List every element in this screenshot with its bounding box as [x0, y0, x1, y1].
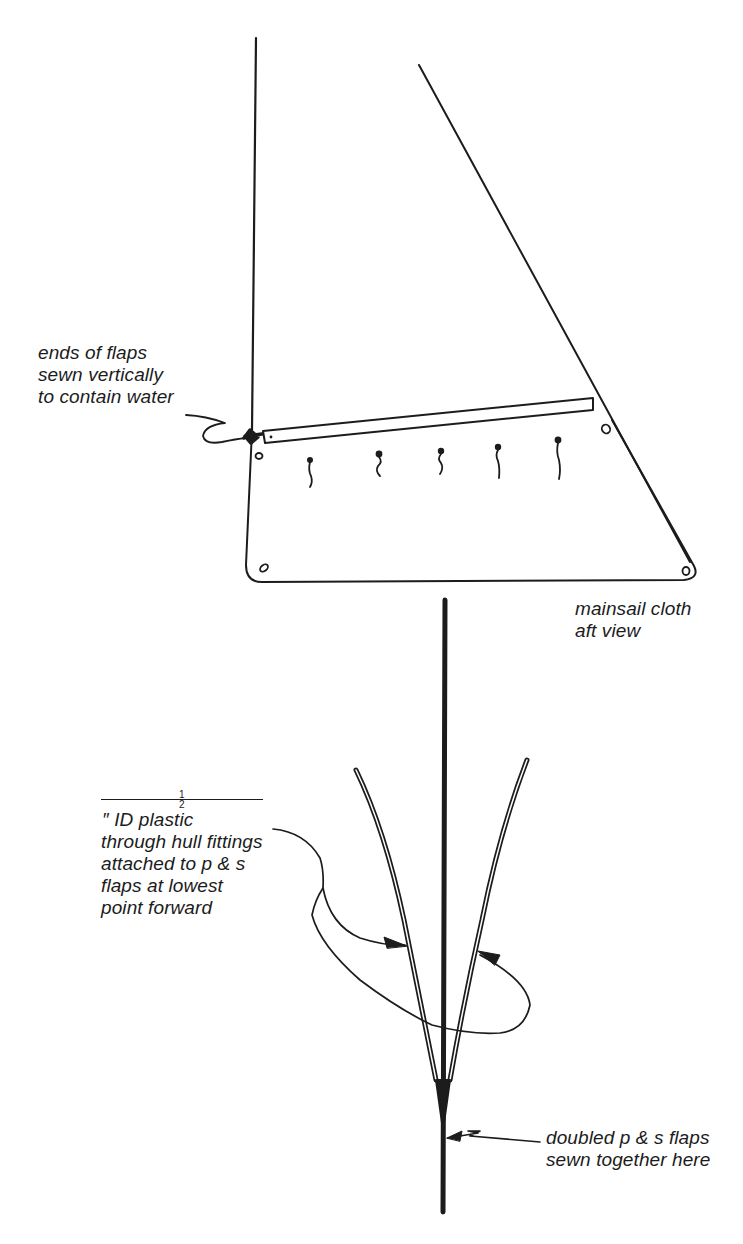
mast-line [252, 38, 256, 430]
flap-ends-callout: ends of flaps sewn vertically to contain… [38, 342, 174, 408]
drain-marker [307, 457, 313, 487]
fittings-leader-branch [323, 888, 405, 945]
flap-section-drawing [273, 600, 540, 1212]
flap-strip [263, 398, 593, 443]
drain-marker [438, 448, 444, 474]
flap-join [436, 1080, 450, 1130]
drain-marker [495, 444, 501, 478]
fittings-leader [273, 829, 530, 1033]
fittings-callout: 1 2 ″ ID plastic through hull fittings a… [101, 790, 263, 919]
arrow-head-icon [478, 951, 500, 965]
arrow-head-icon [384, 937, 407, 948]
grommet-icon [256, 453, 263, 459]
drain-marker [555, 437, 562, 479]
flap-stitch-dot [270, 436, 273, 439]
grommet-icon [600, 423, 611, 435]
flap-end-leader [186, 415, 246, 443]
grommet-icon [259, 563, 270, 573]
fraction-half: 1 2 [101, 790, 263, 809]
arrow-head-icon [447, 1131, 462, 1141]
drain-marker [376, 451, 383, 476]
flap-end-stitch [244, 430, 262, 443]
mainsail-caption: mainsail cloth aft view [575, 598, 692, 642]
seam-callout: doubled p & s flaps sewn together here [546, 1127, 710, 1171]
port-flap [356, 770, 436, 1080]
mainsail-cloth-drawing [186, 38, 696, 582]
grommet-icon [683, 567, 690, 575]
cloth-outline [246, 420, 696, 582]
